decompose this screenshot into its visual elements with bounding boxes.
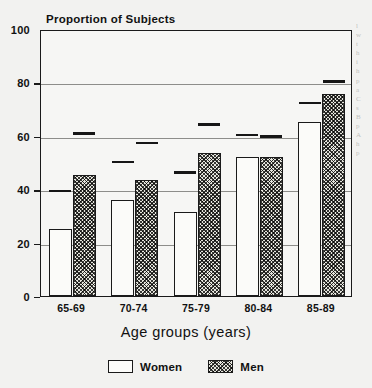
bar-80-84-men bbox=[260, 157, 283, 296]
x-axis-title: Age groups (years) bbox=[0, 324, 372, 340]
legend-swatch-men-icon bbox=[208, 360, 233, 373]
legend-swatch-women-icon bbox=[108, 360, 133, 373]
marker-80-84-men bbox=[260, 135, 282, 138]
y-axis-label-0: 0 bbox=[0, 291, 30, 303]
bar-85-89-men bbox=[322, 94, 345, 296]
plot-frame bbox=[40, 30, 352, 297]
bar-75-79-men bbox=[198, 153, 221, 296]
y-axis-label-20: 20 bbox=[0, 238, 30, 250]
x-axis-label-70-74: 70-74 bbox=[120, 302, 148, 314]
legend-label-men: Men bbox=[240, 361, 264, 373]
y-tick-0 bbox=[34, 297, 40, 298]
y-axis-label-80: 80 bbox=[0, 77, 30, 89]
bar-65-69-women bbox=[49, 229, 72, 296]
marker-70-74-women bbox=[112, 161, 134, 164]
bar-chart-figure: Proportion of Subjects 020406080100 Age … bbox=[0, 0, 372, 388]
y-axis-label-40: 40 bbox=[0, 184, 30, 196]
bar-80-84-women bbox=[236, 157, 259, 296]
bar-85-89-women bbox=[298, 122, 321, 296]
x-axis-label-85-89: 85-89 bbox=[307, 302, 335, 314]
legend-label-women: Women bbox=[140, 361, 182, 373]
gridline-80 bbox=[41, 84, 351, 85]
marker-80-84-women bbox=[236, 134, 258, 137]
x-axis-label-80-84: 80-84 bbox=[244, 302, 272, 314]
legend-item-men: Men bbox=[208, 360, 264, 373]
bar-75-79-women bbox=[174, 212, 197, 296]
plot-area bbox=[41, 31, 351, 296]
y-axis-label-100: 100 bbox=[0, 24, 30, 36]
marker-70-74-men bbox=[136, 142, 158, 145]
bar-70-74-women bbox=[111, 200, 134, 296]
bar-65-69-men bbox=[73, 175, 96, 296]
marker-85-89-men bbox=[323, 80, 345, 83]
bar-70-74-men bbox=[135, 180, 158, 296]
legend-item-women: Women bbox=[108, 360, 182, 373]
x-axis-label-65-69: 65-69 bbox=[57, 302, 85, 314]
marker-65-69-women bbox=[49, 190, 71, 193]
marker-75-79-women bbox=[174, 171, 196, 174]
x-axis-label-75-79: 75-79 bbox=[182, 302, 210, 314]
chart-legend: Women Men bbox=[0, 360, 372, 373]
marker-65-69-men bbox=[73, 132, 95, 135]
marker-75-79-men bbox=[198, 123, 220, 126]
y-axis-label-60: 60 bbox=[0, 131, 30, 143]
marker-85-89-women bbox=[299, 102, 321, 105]
chart-title: Proportion of Subjects bbox=[46, 13, 175, 25]
